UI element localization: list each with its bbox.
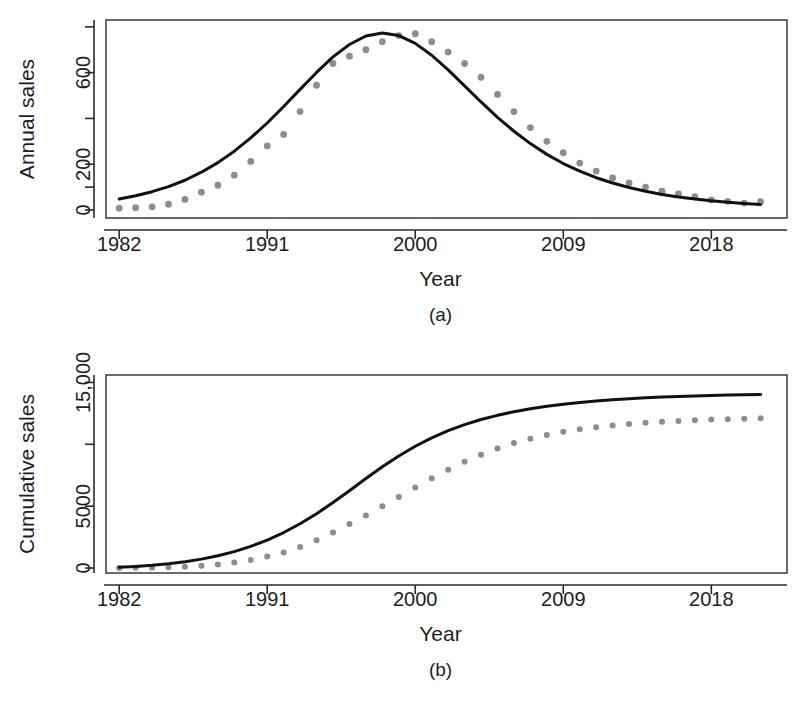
panel-a-x-tick-label: 2000	[393, 233, 438, 255]
data-point	[445, 467, 451, 473]
data-point	[461, 60, 468, 67]
data-point	[494, 445, 500, 451]
panel-b-x-axis-title: Year	[419, 622, 461, 645]
data-point	[412, 30, 419, 37]
data-point	[132, 204, 139, 211]
data-point	[247, 158, 254, 165]
data-point	[511, 108, 518, 115]
panel-a-x-tick-label: 1982	[97, 233, 142, 255]
data-point	[577, 426, 583, 432]
data-point	[379, 38, 386, 45]
panel-a-y-tick-label: 200	[72, 148, 94, 181]
panel-a-x-tick-label: 2009	[541, 233, 586, 255]
data-point	[248, 557, 254, 563]
data-point	[396, 494, 402, 500]
data-point	[429, 475, 435, 481]
panel-a-y-axis-title: Annual sales	[15, 59, 38, 179]
data-point	[281, 549, 287, 555]
panel-b-x-tick-label: 2009	[541, 588, 586, 610]
data-point	[198, 563, 204, 569]
data-point	[231, 560, 237, 566]
data-point	[560, 429, 566, 435]
data-point	[478, 74, 485, 81]
data-point	[231, 172, 238, 179]
data-point	[116, 205, 123, 212]
data-point	[445, 49, 452, 56]
data-point	[346, 521, 352, 527]
data-point	[626, 421, 632, 427]
panel-b-y-tick-label: 5000	[72, 484, 94, 529]
panel-b-panel-tag: (b)	[429, 659, 452, 680]
data-point	[165, 201, 172, 208]
data-point	[346, 53, 353, 60]
data-point	[379, 503, 385, 509]
data-point	[494, 91, 501, 98]
data-point	[511, 440, 517, 446]
figure-root: 198219912000200920180200600YearAnnual sa…	[0, 0, 808, 707]
data-point	[478, 452, 484, 458]
panel-a-y-tick-label: 600	[72, 56, 94, 89]
data-point	[182, 196, 189, 203]
data-point	[692, 417, 698, 423]
data-point	[198, 189, 205, 196]
data-point	[527, 124, 534, 131]
chart-panel-b: 198219912000200920180500015,000YearCumul…	[0, 330, 808, 707]
panel-a-y-tick-label: 0	[72, 204, 94, 215]
panel-a-x-tick-label: 1991	[245, 233, 290, 255]
data-point	[264, 143, 271, 150]
panel-b-x-tick-label: 2018	[689, 588, 734, 610]
data-point	[313, 82, 320, 89]
panel-a-plotarea: 198219912000200920180200600YearAnnual sa…	[15, 20, 788, 325]
panel-b-points-observed-cumulative-sales	[116, 415, 764, 571]
data-point	[527, 436, 533, 442]
panel-b-y-tick-label: 0	[72, 562, 94, 573]
data-point	[280, 131, 287, 138]
panel-a-panel-tag: (a)	[429, 304, 452, 325]
data-point	[215, 561, 221, 567]
panel-b-plot-box	[106, 375, 787, 573]
data-point	[314, 537, 320, 543]
data-point	[297, 544, 303, 550]
panel-a-x-tick-label: 2018	[689, 233, 734, 255]
data-point	[758, 415, 764, 421]
data-point	[149, 203, 156, 210]
data-point	[725, 416, 731, 422]
data-point	[593, 424, 599, 430]
data-point	[544, 432, 550, 438]
data-point	[741, 416, 747, 422]
panel-b-svg: 198219912000200920180500015,000YearCumul…	[0, 330, 808, 707]
chart-panel-a: 198219912000200920180200600YearAnnual sa…	[0, 0, 808, 353]
data-point	[182, 564, 188, 570]
data-point	[214, 182, 221, 189]
data-point	[428, 38, 435, 45]
panel-b-y-tick-label: 15,000	[72, 352, 94, 413]
data-point	[330, 529, 336, 535]
panel-b-plotarea: 198219912000200920180500015,000YearCumul…	[15, 352, 788, 680]
panel-a-svg: 198219912000200920180200600YearAnnual sa…	[0, 0, 808, 353]
data-point	[543, 138, 550, 145]
panel-b-x-tick-label: 1991	[245, 588, 290, 610]
panel-b-x-tick-label: 1982	[97, 588, 142, 610]
data-point	[576, 160, 583, 167]
data-point	[610, 422, 616, 428]
data-point	[264, 554, 270, 560]
data-point	[363, 46, 370, 53]
data-point	[363, 512, 369, 518]
data-point	[708, 417, 714, 423]
data-point	[412, 484, 418, 490]
data-point	[675, 418, 681, 424]
panel-a-points-observed-annual-sales	[116, 30, 764, 211]
data-point	[659, 419, 665, 425]
data-point	[297, 108, 304, 115]
panel-a-x-axis-title: Year	[419, 267, 461, 290]
data-point	[593, 168, 600, 175]
data-point	[643, 420, 649, 426]
panel-b-x-tick-label: 2000	[393, 588, 438, 610]
data-point	[609, 175, 616, 182]
data-point	[462, 459, 468, 465]
data-point	[560, 149, 567, 156]
panel-b-y-axis-title: Cumulative sales	[15, 394, 38, 554]
fitted-curve	[119, 33, 761, 204]
